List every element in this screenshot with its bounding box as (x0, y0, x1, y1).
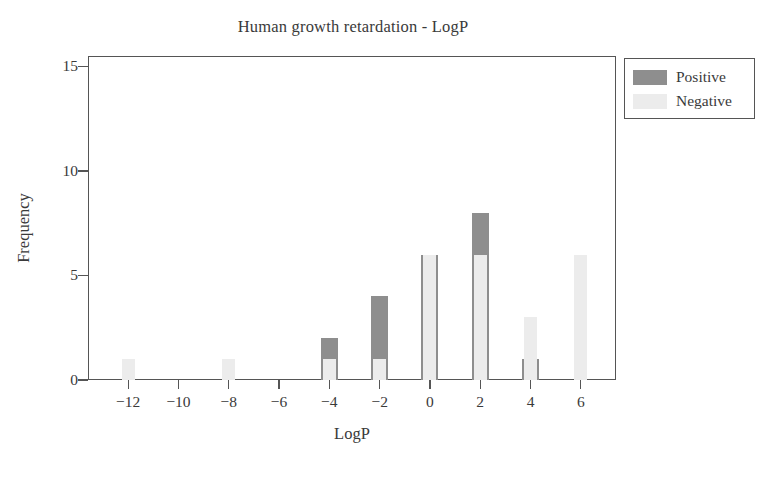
x-tick-mark (480, 380, 481, 389)
plot-area (88, 56, 616, 380)
x-tick-mark (530, 380, 531, 389)
x-tick-label: 6 (557, 393, 605, 411)
x-tick-mark (278, 380, 279, 389)
x-tick-label: 4 (507, 393, 555, 411)
x-tick-mark (580, 380, 581, 389)
x-tick-label: 0 (406, 393, 454, 411)
y-tick-label: 0 (44, 372, 78, 388)
y-tick-label: 15 (44, 59, 78, 75)
bar-negative-−4 (323, 359, 336, 380)
x-tick-label: −4 (305, 393, 353, 411)
x-tick-label: 2 (456, 393, 504, 411)
chart-title: Human growth retardation - LogP (88, 17, 618, 37)
y-tick-label: 10 (44, 163, 78, 179)
bar-negative-6 (574, 255, 587, 380)
bar-negative-−8 (222, 359, 235, 380)
x-tick-mark (128, 380, 129, 389)
x-tick-mark (228, 380, 229, 389)
y-tick-mark (78, 275, 88, 276)
x-tick-mark (379, 380, 380, 389)
bar-negative-2 (474, 255, 487, 380)
bar-negative-4 (524, 317, 537, 380)
legend-label-positive: Positive (676, 69, 726, 85)
y-tick-mark (78, 170, 88, 171)
x-tick-mark (178, 380, 179, 389)
legend-swatch-positive (633, 70, 667, 85)
bar-negative-−12 (122, 359, 135, 380)
legend-label-negative: Negative (676, 93, 732, 109)
legend-item-positive[interactable]: Positive (633, 66, 726, 88)
y-axis-title: Frequency (14, 158, 34, 298)
x-tick-label: −2 (356, 393, 404, 411)
x-tick-label: −8 (205, 393, 253, 411)
chart-figure: Human growth retardation - LogP 051015 F… (0, 0, 779, 486)
x-tick-mark (429, 380, 430, 389)
x-tick-label: −10 (155, 393, 203, 411)
chart-legend: PositiveNegative (624, 58, 755, 119)
legend-item-negative[interactable]: Negative (633, 90, 732, 112)
x-axis-title: LogP (88, 424, 616, 444)
x-tick-label: −6 (255, 393, 303, 411)
y-axis: 051015 (0, 0, 78, 486)
y-tick-mark (78, 379, 88, 380)
bar-negative-−2 (373, 359, 386, 380)
x-tick-mark (329, 380, 330, 389)
x-tick-label: −12 (104, 393, 152, 411)
y-tick-label: 5 (44, 268, 78, 284)
legend-swatch-negative (633, 94, 667, 109)
y-tick-mark (78, 66, 88, 67)
bar-negative-0 (423, 255, 436, 380)
